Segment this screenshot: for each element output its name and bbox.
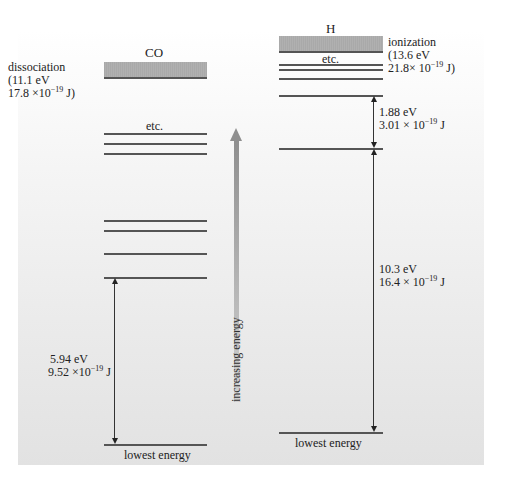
diagram-background <box>18 30 484 465</box>
h-ionization-j-unit: J) <box>443 61 455 75</box>
h-upper-gap-j-exp: −19 <box>425 117 438 126</box>
h-lowest-label: lowest energy <box>295 437 362 450</box>
h-ionization-band <box>279 36 383 53</box>
h-lower-gap-j-exp: −19 <box>425 274 438 283</box>
co-level-3 <box>104 153 207 155</box>
co-dissociation-joules: 17.8 ×10−19 J) <box>8 87 75 100</box>
h-ionization-joules: 21.8× 10−19 J) <box>388 62 455 75</box>
h-level-3 <box>279 78 383 80</box>
h-lower-gap-arrow-down-head-icon <box>371 426 377 432</box>
h-lower-gap-j-unit: J <box>437 275 445 289</box>
h-upper-gap-arrow-line <box>373 100 374 142</box>
h-upper-gap-j-unit: J <box>437 118 445 132</box>
co-level-6 <box>104 253 207 255</box>
co-dissociation-band <box>104 62 207 79</box>
co-level-7 <box>104 277 207 279</box>
h-lower-gap-label: 10.3 eV 16.4 × 10−19 J <box>379 263 445 289</box>
co-level-1 <box>104 133 207 135</box>
h-lower-gap-arrow-line <box>373 154 374 426</box>
h-upper-gap-label: 1.88 eV 3.01 × 10−19 J <box>379 106 445 132</box>
h-upper-gap-j-base: 3.01 × 10 <box>379 118 425 132</box>
co-gap-j-exp: −19 <box>91 364 104 373</box>
co-gap-joules: 9.52 ×10−19 J <box>48 366 111 379</box>
co-gap-j-base: 9.52 ×10 <box>48 365 91 379</box>
h-level-5 <box>279 148 383 150</box>
co-dissociation-j-unit: J) <box>63 86 75 100</box>
h-title: H <box>326 21 335 37</box>
co-dissociation-label: dissociation (11.1 eV 17.8 ×10−19 J) <box>8 61 75 100</box>
h-lower-gap-arrow-up-head-icon <box>371 149 377 155</box>
h-lower-gap-joules: 16.4 × 10−19 J <box>379 276 445 289</box>
co-dissociation-j-exp: −19 <box>51 85 64 94</box>
h-level-4 <box>279 95 383 97</box>
co-etc-label: etc. <box>146 120 163 133</box>
h-lowest-level <box>279 432 383 434</box>
co-gap-arrow-up-head-icon <box>112 278 118 284</box>
h-level-1 <box>279 64 383 66</box>
co-title: CO <box>145 45 163 61</box>
h-upper-gap-arrow-down-head-icon <box>371 142 377 148</box>
h-upper-gap-joules: 3.01 × 10−19 J <box>379 119 445 132</box>
h-level-2 <box>279 69 383 71</box>
h-ionization-j-base: 21.8× 10 <box>388 61 431 75</box>
h-ionization-label: ionization (13.6 eV 21.8× 10−19 J) <box>388 36 455 75</box>
h-ionization-j-exp: −19 <box>431 60 444 69</box>
co-lowest-label: lowest energy <box>124 449 191 462</box>
co-level-4 <box>104 220 207 222</box>
co-gap-arrow-down-head-icon <box>112 438 118 444</box>
co-gap-arrow-line <box>114 282 115 438</box>
co-level-2 <box>104 143 207 145</box>
co-lowest-level <box>104 444 207 446</box>
h-lower-gap-j-base: 16.4 × 10 <box>379 275 425 289</box>
co-dissociation-j-base: 17.8 ×10 <box>8 86 51 100</box>
increasing-energy-label: increasing energy <box>229 317 244 402</box>
co-gap-label: 5.94 eV 9.52 ×10−19 J <box>48 353 111 379</box>
co-gap-j-unit: J <box>103 365 111 379</box>
h-upper-gap-arrow-up-head-icon <box>371 96 377 102</box>
co-level-5 <box>104 230 207 232</box>
